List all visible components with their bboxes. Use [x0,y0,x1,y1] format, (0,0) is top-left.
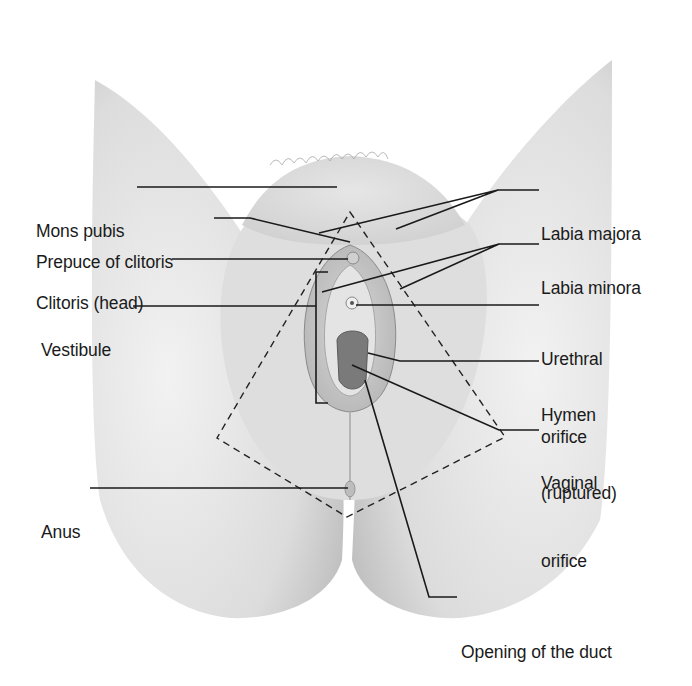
vaginal-orifice-shape [337,331,368,389]
label-text: Vaginal [541,470,597,496]
label-anus: Anus [41,477,81,565]
label-vestibule: Vestibule [41,295,111,383]
label-text: Anus [41,521,81,543]
label-text: orifice [541,548,597,574]
mons-pubis-shape [242,156,465,245]
clitoris-shape [347,252,359,264]
label-text: Opening of the duct [461,639,612,666]
anus-shape [345,481,355,497]
urethral-opening-dot [350,301,354,305]
label-vaginal-orifice: Vaginal orifice [541,418,597,600]
label-text: Vestibule [41,339,111,361]
label-greater-vestibular-duct: Opening of the duct of the greater vesti… [461,585,612,686]
